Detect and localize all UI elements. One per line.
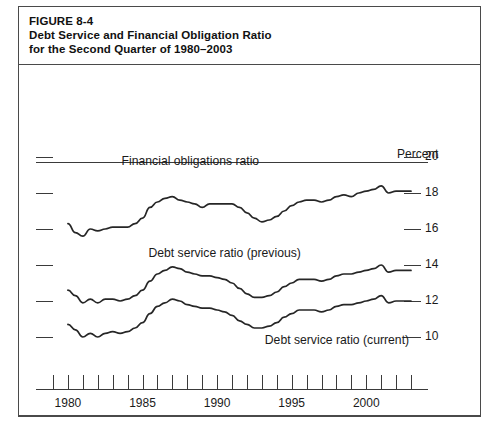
figure-header: FIGURE 8-4 Debt Service and Financial Ob… xyxy=(19,7,480,65)
x-tick-1990 xyxy=(217,375,218,389)
chart-lines-svg xyxy=(19,65,482,416)
figure-title-line-2: for the Second Quarter of 1980–2003 xyxy=(29,42,480,56)
x-tick-1988 xyxy=(187,375,188,389)
figure-bottom-divider xyxy=(19,415,480,416)
x-tick-1994 xyxy=(277,375,278,389)
x-tick-1998 xyxy=(336,375,337,389)
x-tick-1989 xyxy=(202,375,203,389)
series-line-financial-obligations-ratio xyxy=(68,186,411,236)
x-tick-1993 xyxy=(262,375,263,389)
x-tick-1996 xyxy=(307,375,308,389)
series-label-debt-service-ratio-previous: Debt service ratio (previous) xyxy=(148,246,300,260)
figure-title-line-1: Debt Service and Financial Obligation Ra… xyxy=(29,28,480,42)
x-axis-line xyxy=(36,389,428,390)
chart-plot-area: Percent 201816141210 Financial obligatio… xyxy=(19,65,480,416)
series-line-debt-service-ratio-previous xyxy=(68,265,411,303)
x-tick-label-2000: 2000 xyxy=(353,396,380,410)
x-tick-1992 xyxy=(247,375,248,389)
x-tick-1982 xyxy=(98,375,99,389)
x-tick-1985 xyxy=(143,375,144,389)
x-tick-label-1990: 1990 xyxy=(204,396,231,410)
series-label-debt-service-ratio-current: Debt service ratio (current) xyxy=(265,333,409,347)
x-tick-2001 xyxy=(381,375,382,389)
x-tick-2000 xyxy=(366,375,367,389)
figure-frame: FIGURE 8-4 Debt Service and Financial Ob… xyxy=(18,6,481,417)
x-tick-1991 xyxy=(232,375,233,389)
x-tick-label-1980: 1980 xyxy=(55,396,82,410)
x-tick-1999 xyxy=(351,375,352,389)
x-tick-1983 xyxy=(113,375,114,389)
x-tick-1981 xyxy=(83,375,84,389)
x-tick-1980 xyxy=(68,375,69,389)
figure-number: FIGURE 8-4 xyxy=(29,14,480,28)
x-tick-1987 xyxy=(172,375,173,389)
x-tick-1979 xyxy=(53,375,54,389)
x-tick-2002 xyxy=(396,375,397,389)
x-tick-1995 xyxy=(292,375,293,389)
x-tick-1986 xyxy=(157,375,158,389)
series-label-financial-obligations-ratio: Financial obligations ratio xyxy=(122,154,260,168)
x-tick-label-1985: 1985 xyxy=(129,396,156,410)
x-tick-label-1995: 1995 xyxy=(278,396,305,410)
x-tick-1984 xyxy=(128,375,129,389)
x-tick-1997 xyxy=(322,375,323,389)
x-tick-2003 xyxy=(411,375,412,389)
